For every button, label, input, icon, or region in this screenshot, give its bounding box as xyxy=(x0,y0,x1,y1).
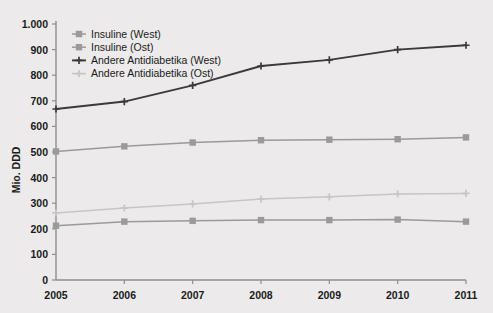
data-point-marker xyxy=(394,216,400,222)
x-axis-tick-label: 2005 xyxy=(44,289,68,301)
x-axis-tick-label: 2011 xyxy=(455,289,478,301)
legend-item[interactable]: Insuline (West) xyxy=(72,28,161,40)
data-point-marker xyxy=(463,218,469,224)
data-point-marker xyxy=(76,44,82,50)
data-point-marker xyxy=(462,42,469,49)
data-point-marker xyxy=(75,70,82,77)
data-point-marker xyxy=(75,57,82,64)
legend-item[interactable]: Andere Antidiabetika (Ost) xyxy=(72,67,214,79)
legend-item[interactable]: Andere Antidiabetika (West) xyxy=(72,54,221,66)
data-series xyxy=(53,216,469,229)
line-chart: 01002003004005006007008009001.000 200520… xyxy=(0,0,493,313)
data-series xyxy=(53,134,469,154)
data-point-marker xyxy=(394,46,401,53)
y-axis-tick-label: 100 xyxy=(30,248,48,260)
x-axis-tick-label: 2009 xyxy=(318,289,342,301)
data-point-marker xyxy=(189,200,196,207)
data-point-marker xyxy=(326,56,333,63)
x-axis-tick-label: 2007 xyxy=(181,289,205,301)
data-point-marker xyxy=(258,217,264,223)
data-point-marker xyxy=(189,218,195,224)
chart-legend: Insuline (West)Insuline (Ost)Andere Anti… xyxy=(72,28,221,80)
legend-item-label: Andere Antidiabetika (Ost) xyxy=(91,67,214,79)
x-axis-tick-label: 2010 xyxy=(386,289,410,301)
y-axis-tick-label: 700 xyxy=(30,95,48,107)
y-axis-tick-label: 200 xyxy=(30,223,48,235)
legend-item-label: Andere Antidiabetika (West) xyxy=(91,54,221,66)
data-point-marker xyxy=(52,105,59,112)
data-point-marker xyxy=(76,31,82,37)
data-point-marker xyxy=(121,143,127,149)
data-point-marker xyxy=(394,190,401,197)
data-point-marker xyxy=(52,209,59,216)
x-axis-tick-label: 2008 xyxy=(249,289,273,301)
y-axis-tick-label: 500 xyxy=(30,146,48,158)
y-axis-tick-label: 300 xyxy=(30,197,48,209)
y-axis-tick-label: 400 xyxy=(30,172,48,184)
y-axis-tick-label: 600 xyxy=(30,120,48,132)
x-axis-tick-label: 2006 xyxy=(113,289,137,301)
data-point-marker xyxy=(326,137,332,143)
y-axis-tick-label: 900 xyxy=(30,44,48,56)
data-point-marker xyxy=(121,218,127,224)
data-point-marker xyxy=(53,148,59,154)
data-point-marker xyxy=(189,82,196,89)
y-axis-tick-label: 800 xyxy=(30,69,48,81)
data-point-marker xyxy=(121,98,128,105)
y-axis-title: Mio. DDD xyxy=(10,146,22,193)
y-axis-tick-label: 1.000 xyxy=(22,18,48,30)
data-point-marker xyxy=(257,196,264,203)
data-point-marker xyxy=(326,217,332,223)
chart-container: 01002003004005006007008009001.000 200520… xyxy=(0,0,493,313)
data-point-marker xyxy=(258,137,264,143)
y-axis: 01002003004005006007008009001.000 xyxy=(22,18,56,286)
data-point-marker xyxy=(394,136,400,142)
data-point-marker xyxy=(189,139,195,145)
x-axis: 2005200620072008200920102011 xyxy=(44,280,477,301)
data-point-marker xyxy=(326,193,333,200)
data-point-marker xyxy=(463,134,469,140)
data-point-marker xyxy=(257,62,264,69)
legend-item[interactable]: Insuline (Ost) xyxy=(72,41,153,53)
data-point-marker xyxy=(53,223,59,229)
data-series xyxy=(52,190,469,217)
data-point-marker xyxy=(121,204,128,211)
legend-item-label: Insuline (West) xyxy=(91,28,161,40)
data-point-marker xyxy=(462,190,469,197)
legend-item-label: Insuline (Ost) xyxy=(91,41,153,53)
y-axis-tick-label: 0 xyxy=(42,274,48,286)
